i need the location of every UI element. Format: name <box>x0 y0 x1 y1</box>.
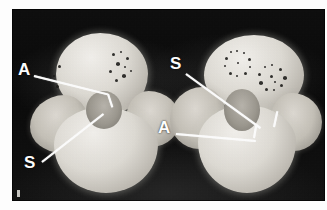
specimen-right-pigment-cluster-right <box>256 63 290 97</box>
label-right-a: A <box>158 119 170 136</box>
label-left-a: A <box>18 61 30 78</box>
label-left-s: S <box>24 154 35 171</box>
photograph-plate: A S S A <box>12 9 325 201</box>
figure-root: A S S A <box>0 0 327 210</box>
specimen-right <box>170 31 322 197</box>
specimen-left <box>30 29 180 197</box>
specimen-right-pigment-cluster-left <box>222 49 256 83</box>
label-right-s: S <box>170 55 181 72</box>
scale-tick-mark <box>17 190 20 197</box>
